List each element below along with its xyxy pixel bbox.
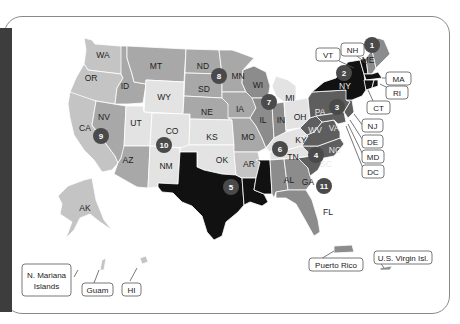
label-OH: OH [294,112,307,122]
callout-n-mariana-islands[interactable]: N. Mariana Islands [22,264,71,296]
svg-text:10: 10 [160,141,169,150]
state-FL[interactable] [276,190,320,236]
label-NM: NM [159,161,172,171]
svg-text:NJ: NJ [368,122,378,131]
svg-text:3: 3 [335,103,340,112]
callout-guam[interactable]: Guam [82,283,113,296]
svg-text:VT: VT [323,51,333,60]
label-KY: KY [295,135,307,145]
label-MT: MT [150,61,162,71]
label-IN: IN [277,115,286,125]
svg-text:HI: HI [128,286,136,295]
state-HI[interactable] [140,256,148,264]
svg-text:8: 8 [217,72,222,81]
label-IL: IL [259,115,266,125]
badge-5[interactable]: 5 [223,179,239,195]
svg-text:DC: DC [367,168,379,177]
svg-text:4: 4 [314,151,319,160]
badge-7[interactable]: 7 [261,94,277,110]
badge-1[interactable]: 1 [364,37,380,53]
label-OK: OK [216,155,229,165]
label-AZ: AZ [123,155,134,165]
label-ND: ND [197,61,209,71]
label-MI: MI [285,93,294,103]
label-SC: SC [320,159,332,169]
label-MN: MN [231,71,244,81]
label-UT: UT [130,118,141,128]
label-CO: CO [166,126,179,136]
svg-text:7: 7 [267,98,272,107]
badge-2[interactable]: 2 [336,65,352,81]
callout-RI[interactable]: RI [386,86,408,99]
svg-text:RI: RI [393,89,401,98]
badge-3[interactable]: 3 [329,99,345,115]
label-NE: NE [201,107,213,117]
label-ME: ME [362,55,375,65]
callout-us-virgin-islands[interactable]: U.S. Virgin Isl. [374,251,432,264]
badge-4[interactable]: 4 [308,147,324,163]
label-IA: IA [236,104,244,114]
label-ID: ID [121,81,130,91]
label-AR: AR [243,159,255,169]
callout-puerto-rico[interactable]: Puerto Rico [309,258,363,271]
svg-text:Islands: Islands [34,282,59,291]
label-WV: WV [308,125,322,135]
virgin-islands-shape[interactable] [380,266,392,270]
us-map: WA OR CA NV ID MT WY UT CO AZ NM ND SD N… [0,0,460,324]
label-MO: MO [241,132,255,142]
callout-DC[interactable]: DC [362,165,384,178]
label-CA: CA [79,123,91,133]
callout-CT[interactable]: CT [367,101,390,114]
callout-NJ[interactable]: NJ [362,119,383,132]
callout-HI[interactable]: HI [122,283,141,296]
svg-text:Puerto Rico: Puerto Rico [315,261,357,270]
svg-text:U.S. Virgin Isl.: U.S. Virgin Isl. [378,254,429,263]
svg-text:Guam: Guam [87,286,109,295]
callout-MA[interactable]: MA [386,72,411,85]
badge-6[interactable]: 6 [272,141,288,157]
svg-text:6: 6 [278,145,283,154]
label-SD: SD [198,84,210,94]
label-OR: OR [85,73,98,83]
svg-text:1: 1 [370,41,375,50]
label-AK: AK [79,203,91,213]
label-KS: KS [206,132,218,142]
svg-text:2: 2 [342,69,347,78]
label-TN: TN [287,152,298,162]
callout-VT[interactable]: VT [316,48,340,61]
label-WY: WY [157,92,171,102]
svg-text:MA: MA [393,75,406,84]
badge-9[interactable]: 9 [93,128,109,144]
svg-text:9: 9 [99,132,104,141]
label-NV: NV [98,112,110,122]
puerto-rico-shape[interactable] [334,245,354,253]
label-VA: VA [329,123,340,133]
badge-8[interactable]: 8 [211,68,227,84]
label-NC: NC [329,145,341,155]
svg-text:5: 5 [229,183,234,192]
label-WA: WA [96,50,110,60]
label-GA: GA [302,177,315,187]
guam-shape[interactable] [100,258,106,270]
callout-MD[interactable]: MD [362,150,384,163]
svg-text:11: 11 [320,182,329,191]
svg-text:N. Mariana: N. Mariana [27,271,67,280]
badge-11[interactable]: 11 [316,178,332,194]
callout-NH[interactable]: NH [341,43,364,56]
label-FL: FL [323,207,333,217]
callout-DE[interactable]: DE [362,135,383,148]
svg-text:CT: CT [373,104,384,113]
label-PA: PA [315,107,326,117]
label-WI: WI [253,80,263,90]
svg-text:DE: DE [367,138,378,147]
svg-text:NH: NH [347,46,359,55]
badge-10[interactable]: 10 [156,137,172,153]
label-AL: AL [284,175,295,185]
svg-text:MD: MD [367,153,380,162]
label-NY: NY [339,81,351,91]
